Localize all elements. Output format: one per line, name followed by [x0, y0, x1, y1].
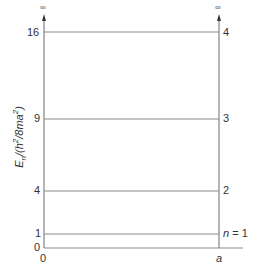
right-infinity-symbol: ∞	[215, 4, 221, 12]
left-wall-arrow-icon	[42, 14, 46, 21]
y-tick-4: 4	[34, 185, 40, 196]
level-label-n2: 2	[223, 185, 229, 196]
level-label-n4: 4	[223, 27, 229, 38]
y-label-sup1: 2	[11, 139, 20, 143]
y-label-mid: /8ma	[13, 114, 25, 138]
level-n-symbol: n	[223, 227, 229, 239]
right-wall-arrow-icon	[217, 14, 221, 21]
left-infinity-symbol: ∞	[40, 4, 46, 12]
level-label-n3: 3	[223, 113, 229, 124]
y-tick-16: 16	[27, 27, 39, 38]
x-tick-0: 0	[40, 253, 46, 264]
level-label-n1: n = 1	[223, 228, 248, 239]
y-axis-label: En/(h2/8ma2)	[11, 89, 25, 185]
y-tick-1: 1	[35, 228, 41, 239]
y-label-sup2: 2	[11, 110, 20, 114]
y-label-rest: /(h	[13, 143, 25, 156]
y-label-sub: n	[19, 156, 28, 160]
y-label-e: E	[13, 161, 25, 168]
y-tick-9: 9	[34, 113, 40, 124]
y-label-end: )	[13, 106, 25, 110]
x-tick-a: a	[216, 253, 222, 264]
